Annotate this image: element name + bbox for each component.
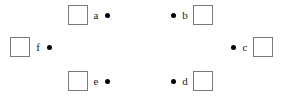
node-f[interactable]: f bbox=[10, 37, 53, 57]
dot-icon-f bbox=[47, 45, 52, 50]
square-icon-a bbox=[68, 5, 88, 25]
node-d[interactable]: d bbox=[170, 71, 213, 91]
dot-icon-b bbox=[171, 13, 176, 18]
square-icon-e bbox=[68, 71, 88, 91]
node-e[interactable]: e bbox=[68, 71, 111, 91]
square-icon-b bbox=[193, 5, 213, 25]
node-diagram-canvas: a b c d e f bbox=[0, 0, 287, 99]
dot-icon-e bbox=[105, 79, 110, 84]
dot-icon-d bbox=[171, 79, 176, 84]
node-label-c: c bbox=[237, 42, 253, 53]
node-label-a: a bbox=[88, 10, 104, 21]
square-icon-d bbox=[193, 71, 213, 91]
node-c[interactable]: c bbox=[230, 37, 273, 57]
node-label-f: f bbox=[30, 42, 46, 53]
dot-icon-c bbox=[231, 45, 236, 50]
square-icon-f bbox=[10, 37, 30, 57]
square-icon-c bbox=[253, 37, 273, 57]
dot-icon-a bbox=[105, 13, 110, 18]
node-label-b: b bbox=[177, 10, 193, 21]
node-label-e: e bbox=[88, 76, 104, 87]
node-label-d: d bbox=[177, 76, 193, 87]
node-b[interactable]: b bbox=[170, 5, 213, 25]
node-a[interactable]: a bbox=[68, 5, 111, 25]
